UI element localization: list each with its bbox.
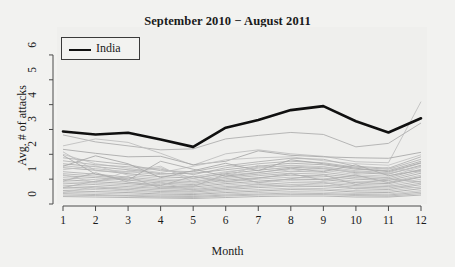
x-tick-label: 7: [246, 214, 270, 226]
chart-figure: September 2010 − August 2011 Avg. # of a…: [0, 0, 455, 267]
x-tick-label: 3: [116, 214, 140, 226]
x-tick-label: 12: [409, 214, 433, 226]
legend-line-swatch: [69, 49, 91, 52]
x-tick-label: 6: [214, 214, 238, 226]
y-tick-label: 5: [26, 67, 38, 89]
y-tick-label: 1: [26, 166, 38, 188]
x-tick-label: 10: [344, 214, 368, 226]
x-tick-label: 9: [311, 214, 335, 226]
y-tick-label: 3: [26, 116, 38, 138]
x-tick-label: 8: [279, 214, 303, 226]
x-tick-label: 4: [149, 214, 173, 226]
x-tick-label: 5: [181, 214, 205, 226]
legend-box[interactable]: India: [61, 37, 140, 60]
y-tick-label: 4: [26, 92, 38, 114]
x-tick-label: 1: [51, 214, 75, 226]
x-tick-label: 11: [376, 214, 400, 226]
x-axis-title: Month: [0, 244, 455, 259]
y-tick-label: 2: [26, 141, 38, 163]
x-tick-label: 2: [84, 214, 108, 226]
y-tick-label: 6: [26, 42, 38, 64]
y-tick-label: 0: [26, 191, 38, 213]
legend-label-india: India: [96, 41, 121, 56]
